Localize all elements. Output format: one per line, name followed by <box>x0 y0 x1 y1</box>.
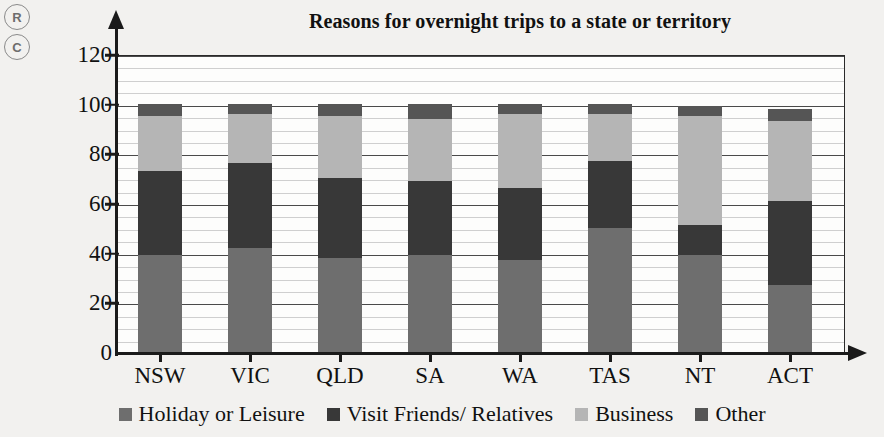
margin-mark-r: R <box>4 4 30 30</box>
gridline-minor <box>117 292 844 293</box>
bar-segment-tas-3 <box>588 104 632 114</box>
y-tick-label-40: 40 <box>50 241 112 267</box>
x-tick-label-vic: VIC <box>200 363 300 389</box>
bar-segment-nsw-1 <box>138 171 182 255</box>
bar-segment-sa-2 <box>408 119 452 181</box>
gridline-minor <box>117 131 844 132</box>
gridline-major <box>117 56 844 57</box>
bar-qld[interactable] <box>318 104 362 352</box>
gridline-minor <box>117 168 844 169</box>
y-axis-line <box>115 26 118 356</box>
legend-label: Visit Friends/ Relatives <box>347 401 553 427</box>
bar-segment-act-1 <box>768 201 812 285</box>
plot-area <box>117 55 845 353</box>
bar-segment-vic-0 <box>228 248 272 352</box>
y-tick-label-80: 80 <box>50 141 112 167</box>
bar-segment-nt-3 <box>678 106 722 116</box>
bar-act[interactable] <box>768 109 812 352</box>
bar-tas[interactable] <box>588 104 632 352</box>
bar-segment-act-2 <box>768 121 812 200</box>
legend-item-0[interactable]: Holiday or Leisure <box>119 401 305 427</box>
bar-segment-qld-3 <box>318 104 362 116</box>
legend-item-3[interactable]: Other <box>695 401 765 427</box>
y-tick-mark-120 <box>105 54 119 57</box>
bar-segment-nt-0 <box>678 255 722 352</box>
gridline-minor <box>117 180 844 181</box>
y-tick-mark-100 <box>105 103 119 106</box>
gridline-minor <box>117 280 844 281</box>
y-tick-label-20: 20 <box>50 290 112 316</box>
bar-segment-wa-1 <box>498 188 542 260</box>
gridline-minor <box>117 143 844 144</box>
x-tick-label-nt: NT <box>650 363 750 389</box>
bar-nt[interactable] <box>678 106 722 352</box>
bar-segment-sa-3 <box>408 104 452 119</box>
x-tick-label-nsw: NSW <box>110 363 210 389</box>
y-tick-label-0: 0 <box>50 340 112 366</box>
x-tick-label-tas: TAS <box>560 363 660 389</box>
x-tick-label-wa: WA <box>470 363 570 389</box>
gridline-major <box>117 205 844 206</box>
x-tick-label-sa: SA <box>380 363 480 389</box>
bar-segment-vic-3 <box>228 104 272 114</box>
gridline-major <box>117 304 844 305</box>
y-tick-label-60: 60 <box>50 191 112 217</box>
gridline-minor <box>117 267 844 268</box>
x-tick-mark-act <box>789 353 792 362</box>
bar-nsw[interactable] <box>138 104 182 352</box>
bar-segment-nsw-3 <box>138 104 182 116</box>
legend-label: Other <box>715 401 765 427</box>
bar-segment-qld-0 <box>318 258 362 352</box>
bar-segment-wa-0 <box>498 260 542 352</box>
bar-wa[interactable] <box>498 104 542 352</box>
gridline-minor <box>117 230 844 231</box>
bar-segment-tas-2 <box>588 114 632 161</box>
bar-segment-nsw-0 <box>138 255 182 352</box>
legend-label: Holiday or Leisure <box>139 401 305 427</box>
gridline-minor <box>117 329 844 330</box>
bar-segment-qld-1 <box>318 178 362 257</box>
y-tick-mark-80 <box>105 153 119 156</box>
y-tick-mark-60 <box>105 203 119 206</box>
gridline-major <box>117 106 844 107</box>
legend-swatch-icon <box>695 408 708 421</box>
bar-segment-tas-1 <box>588 161 632 228</box>
bar-segment-nt-1 <box>678 225 722 255</box>
chart-title: Reasons for overnight trips to a state o… <box>175 10 865 33</box>
bar-segment-act-0 <box>768 285 812 352</box>
x-tick-mark-sa <box>429 353 432 362</box>
x-tick-mark-vic <box>249 353 252 362</box>
bar-segment-nsw-2 <box>138 116 182 171</box>
legend-swatch-icon <box>327 408 340 421</box>
x-tick-mark-nt <box>699 353 702 362</box>
gridline-major <box>117 155 844 156</box>
bar-segment-nt-2 <box>678 116 722 225</box>
bar-segment-vic-1 <box>228 163 272 247</box>
margin-mark-c: C <box>4 34 30 60</box>
bar-segment-vic-2 <box>228 114 272 164</box>
y-tick-mark-40 <box>105 252 119 255</box>
x-tick-mark-wa <box>519 353 522 362</box>
chart-legend: Holiday or LeisureVisit Friends/ Relativ… <box>0 401 884 427</box>
x-axis-arrow-icon <box>848 345 867 361</box>
bar-segment-tas-0 <box>588 228 632 352</box>
gridline-minor <box>117 118 844 119</box>
legend-item-1[interactable]: Visit Friends/ Relatives <box>327 401 553 427</box>
x-axis-line <box>115 352 852 355</box>
bar-segment-sa-0 <box>408 255 452 352</box>
legend-swatch-icon <box>575 408 588 421</box>
gridline-minor <box>117 68 844 69</box>
bar-vic[interactable] <box>228 104 272 352</box>
x-tick-mark-qld <box>339 353 342 362</box>
bar-segment-sa-1 <box>408 181 452 256</box>
bar-segment-act-3 <box>768 109 812 121</box>
gridline-major <box>117 255 844 256</box>
y-tick-label-100: 100 <box>50 92 112 118</box>
legend-label: Business <box>595 401 673 427</box>
gridline-minor <box>117 317 844 318</box>
bar-segment-wa-2 <box>498 114 542 189</box>
legend-item-2[interactable]: Business <box>575 401 673 427</box>
bar-segment-wa-3 <box>498 104 542 114</box>
bar-sa[interactable] <box>408 104 452 352</box>
legend-swatch-icon <box>119 408 132 421</box>
